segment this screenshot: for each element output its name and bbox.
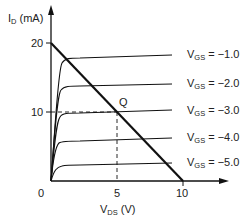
- origin-label: 0: [38, 187, 44, 199]
- curve-vgs-minus-4: [51, 138, 172, 181]
- curve-vgs-minus-2: [51, 84, 172, 181]
- y-axis-label: ID(mA): [8, 12, 43, 26]
- jfet-characteristic-chart: ID(mA) 20 10 0 5 10 VDS(V) Q VGS= −1.0 V…: [0, 0, 252, 222]
- curve-label-vgs-minus-4: VGS= −4.0: [187, 131, 239, 145]
- y-tick-label-10: 10: [31, 106, 43, 118]
- curve-vgs-minus-3: [51, 110, 172, 181]
- x-axis-arrow-icon: [219, 178, 229, 184]
- x-tick-label-5: 5: [114, 187, 120, 199]
- curve-vgs-minus-5: [51, 163, 172, 181]
- curve-label-vgs-minus-2: VGS= −2.0: [187, 77, 239, 91]
- curve-label-vgs-minus-3: VGS= −3.0: [187, 104, 239, 118]
- curve-label-vgs-minus-1: VGS= −1.0: [187, 48, 239, 62]
- curve-label-vgs-minus-5: VGS= −5.0: [187, 156, 239, 170]
- y-axis-arrow-icon: [48, 5, 54, 15]
- curve-vgs-minus-1: [51, 55, 172, 181]
- y-tick-label-20: 20: [31, 37, 43, 49]
- load-line: [51, 43, 183, 181]
- q-point-label: Q: [119, 96, 128, 108]
- x-tick-label-10: 10: [176, 187, 188, 199]
- x-axis-label: VDS(V): [100, 203, 135, 217]
